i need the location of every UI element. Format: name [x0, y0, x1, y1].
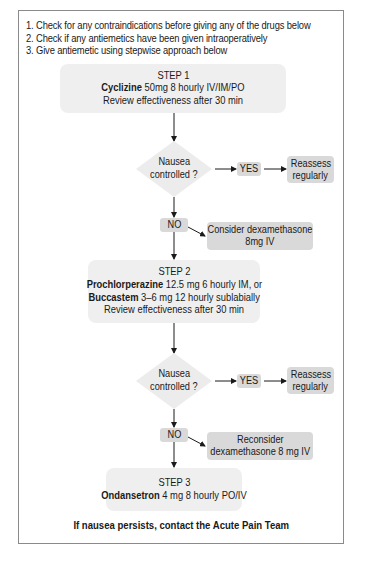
- reassess-line2: regularly: [293, 381, 328, 393]
- decision-1-line1: Nausea: [158, 156, 190, 169]
- footer-note: If nausea persists, contact the Acute Pa…: [18, 520, 344, 531]
- yes-text: YES: [240, 163, 258, 175]
- decision-1-yes-label: YES: [237, 162, 261, 176]
- step-3-drug: Ondansetron: [101, 490, 159, 501]
- step-2-drug2-line: Buccastem 3–6 mg 12 hourly sublabially: [88, 292, 259, 305]
- step-3-drug-line: Ondansetron 4 mg 8 hourly PO/IV: [101, 490, 246, 503]
- step-2-drug1: Prochlorperazine: [86, 279, 163, 290]
- step-3-title: STEP 3: [158, 477, 190, 490]
- decision-2-line2: controlled ?: [150, 381, 198, 394]
- footer-text: If nausea persists, contact the Acute Pa…: [73, 520, 289, 531]
- step-1-box: STEP 1 Cyclizine 50mg 8 hourly IV/IM/PO …: [60, 64, 286, 113]
- reconsider-line2: dexamethasone 8 mg IV: [210, 446, 310, 458]
- decision-2-reassess-box: Reassess regularly: [287, 367, 334, 394]
- no-text: NO: [167, 219, 181, 231]
- consider-dexamethasone-box: Consider dexamethasone 8mg IV: [207, 222, 313, 250]
- step-1-title: STEP 1: [157, 70, 189, 83]
- step-3-box: STEP 3 Ondansetron 4 mg 8 hourly PO/IV: [106, 468, 242, 511]
- step-2-title: STEP 2: [158, 266, 190, 279]
- decision-2-no-label: NO: [160, 428, 188, 442]
- reconsider-dexamethasone-box: Reconsider dexamethasone 8 mg IV: [207, 432, 313, 460]
- decision-1-line2: controlled ?: [150, 169, 198, 182]
- step-1-review: Review effectiveness after 30 min: [103, 95, 243, 108]
- step-1-drug-line: Cyclizine 50mg 8 hourly IV/IM/PO: [101, 82, 244, 95]
- step-2-dose2: 3–6 mg 12 hourly sublabially: [138, 292, 259, 303]
- yes-text: YES: [240, 375, 258, 387]
- decision-2-line1: Nausea: [158, 368, 190, 381]
- step-1-drug: Cyclizine: [101, 82, 142, 93]
- step-3-dose: 4 mg 8 hourly PO/IV: [160, 490, 247, 501]
- decision-2-yes-label: YES: [237, 374, 261, 388]
- step-1-dose: 50mg 8 hourly IV/IM/PO: [142, 82, 245, 93]
- decision-1-reassess-box: Reassess regularly: [287, 156, 334, 183]
- step-2-dose1: 12.5 mg 6 hourly IM, or: [163, 279, 262, 290]
- decision-1-diamond: Nausea controlled ?: [136, 141, 212, 197]
- step-2-drug1-line: Prochlorperazine 12.5 mg 6 hourly IM, or: [86, 279, 262, 292]
- step-2-box: STEP 2 Prochlorperazine 12.5 mg 6 hourly…: [88, 260, 260, 323]
- reassess-line1: Reassess: [290, 369, 330, 381]
- reassess-line2: regularly: [293, 170, 328, 182]
- reassess-line1: Reassess: [290, 158, 330, 170]
- consider-line1: Consider dexamethasone: [208, 224, 313, 236]
- reconsider-line1: Reconsider: [237, 434, 284, 446]
- step-2-review: Review effectiveness after 30 min: [104, 304, 244, 317]
- step-2-drug2: Buccastem: [88, 292, 138, 303]
- no-text: NO: [167, 429, 181, 441]
- decision-1-no-label: NO: [160, 218, 188, 232]
- consider-line2: 8mg IV: [245, 236, 274, 248]
- decision-2-diamond: Nausea controlled ?: [136, 353, 212, 409]
